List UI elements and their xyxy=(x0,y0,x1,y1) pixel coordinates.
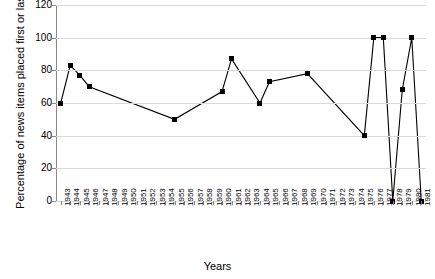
x-axis-tick-label: 1943 xyxy=(64,188,72,206)
x-axis-tick-label: 1976 xyxy=(377,188,385,206)
y-axis-tick-mark xyxy=(52,5,56,6)
x-axis-tick-label: 1954 xyxy=(168,188,176,206)
data-point-marker xyxy=(381,35,386,40)
x-axis-tick-label: 1962 xyxy=(244,188,252,206)
x-axis-tick-label: 1960 xyxy=(225,188,233,206)
gridline xyxy=(56,103,426,104)
data-point-marker xyxy=(257,101,262,106)
gridline xyxy=(56,5,426,6)
x-axis-tick-label: 1955 xyxy=(178,188,186,206)
x-axis-tick-label: 1975 xyxy=(367,188,375,206)
x-axis-tick-label: 1946 xyxy=(92,188,100,206)
x-axis-title: Years xyxy=(0,260,435,272)
y-axis-tick-mark xyxy=(52,201,56,202)
x-axis-tick-mark xyxy=(61,201,62,205)
x-axis-tick-label: 1973 xyxy=(348,188,356,206)
x-axis-tick-label: 1961 xyxy=(235,188,243,206)
y-axis-tick-labels: 020406080100120 xyxy=(0,0,52,215)
data-point-marker xyxy=(305,71,310,76)
x-axis-tick-label: 1945 xyxy=(83,188,91,206)
data-point-marker xyxy=(371,35,376,40)
x-axis-tick-label: 1964 xyxy=(263,188,271,206)
x-axis-tick-label: 1971 xyxy=(329,188,337,206)
y-axis-tick-mark xyxy=(52,136,56,137)
x-axis-tick-label: 1974 xyxy=(358,188,366,206)
y-axis-tick-label: 60 xyxy=(6,98,52,108)
data-point-marker xyxy=(229,56,234,61)
data-point-marker xyxy=(220,89,225,94)
x-axis-tick-label: 1981 xyxy=(424,188,432,206)
plot-area xyxy=(56,5,426,201)
x-axis-tick-label: 1950 xyxy=(130,188,138,206)
y-axis-tick-label: 0 xyxy=(6,196,52,206)
gridline xyxy=(56,70,426,71)
gridline xyxy=(56,136,426,137)
x-axis-tick-label: 1953 xyxy=(159,188,167,206)
x-axis-tick-label: 1970 xyxy=(320,188,328,206)
x-axis-tick-label: 1968 xyxy=(301,188,309,206)
x-axis-tick-label: 1966 xyxy=(282,188,290,206)
y-axis-tick-label: 100 xyxy=(6,33,52,43)
x-axis-tick-label: 1956 xyxy=(187,188,195,206)
y-axis-tick-mark xyxy=(52,168,56,169)
y-axis-tick-mark xyxy=(52,38,56,39)
gridline xyxy=(56,168,426,169)
x-axis-tick-label: 1972 xyxy=(339,188,347,206)
x-axis-tick-label: 1948 xyxy=(111,188,119,206)
data-point-marker xyxy=(77,73,82,78)
x-axis-tick-label: 1980 xyxy=(415,188,423,206)
y-axis-tick-mark xyxy=(52,70,56,71)
y-axis-tick-label: 40 xyxy=(6,131,52,141)
x-axis-tick-label: 1965 xyxy=(272,188,280,206)
x-axis-tick-label: 1978 xyxy=(396,188,404,206)
x-axis-tick-label: 1963 xyxy=(253,188,261,206)
data-point-marker xyxy=(68,63,73,68)
y-axis-tick-mark xyxy=(52,103,56,104)
x-axis-tick-label: 1977 xyxy=(386,188,394,206)
x-axis-tick-label: 1947 xyxy=(102,188,110,206)
data-point-marker xyxy=(400,87,405,92)
data-point-marker xyxy=(267,79,272,84)
x-axis-tick-label: 1957 xyxy=(197,188,205,206)
x-axis-tick-label: 1959 xyxy=(216,188,224,206)
x-axis-tick-label: 1967 xyxy=(291,188,299,206)
y-axis-tick-label: 120 xyxy=(6,0,52,10)
x-axis-tick-label: 1979 xyxy=(405,188,413,206)
data-point-marker xyxy=(362,133,367,138)
data-point-marker xyxy=(58,101,63,106)
x-axis-tick-label: 1944 xyxy=(73,188,81,206)
data-point-marker xyxy=(87,84,92,89)
x-axis-tick-label: 1969 xyxy=(310,188,318,206)
data-point-marker xyxy=(172,117,177,122)
x-axis-tick-label: 1958 xyxy=(206,188,214,206)
y-axis-tick-label: 20 xyxy=(6,163,52,173)
line-chart: Percentage of news items placed first or… xyxy=(0,0,435,279)
x-axis-tick-label: 1949 xyxy=(121,188,129,206)
x-axis-tick-label: 1951 xyxy=(140,188,148,206)
x-axis-tick-label: 1952 xyxy=(149,188,157,206)
data-point-marker xyxy=(409,35,414,40)
y-axis-tick-label: 80 xyxy=(6,65,52,75)
